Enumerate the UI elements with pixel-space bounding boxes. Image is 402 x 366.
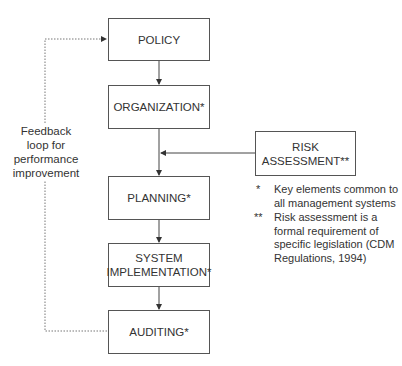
system-implementation-box: SYSTEM IMPLEMENTATION* — [108, 243, 210, 287]
organization-box: ORGANIZATION* — [108, 85, 210, 129]
organization-label: ORGANIZATION* — [113, 100, 204, 114]
system-label-line1: SYSTEM — [135, 251, 182, 265]
system-label-line2: IMPLEMENTATION* — [107, 265, 212, 279]
risk-assessment-box: RISK ASSESSMENT** — [255, 131, 356, 176]
policy-box: POLICY — [108, 18, 210, 61]
auditing-box: AUDITING* — [108, 310, 210, 354]
planning-label: PLANNING* — [127, 191, 190, 205]
auditing-label: AUDITING* — [129, 325, 188, 339]
feedback-loop-label: Feedback loop for performance improvemen… — [8, 124, 84, 180]
risk-label-line2: ASSESSMENT** — [262, 154, 350, 168]
risk-label-line1: RISK — [292, 140, 319, 154]
planning-box: PLANNING* — [108, 176, 210, 220]
policy-label: POLICY — [138, 33, 180, 47]
